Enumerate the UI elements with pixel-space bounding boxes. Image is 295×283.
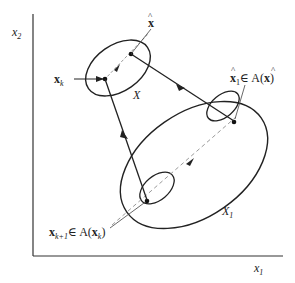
map-xk-to-xk1 — [105, 79, 147, 200]
label-xk: xk — [54, 72, 64, 88]
label-xk1-relation: xk+1∈ A(xk) — [49, 225, 105, 241]
label-set-x: X — [132, 88, 141, 102]
xk1-neighborhood — [134, 166, 180, 210]
xk1-leader — [110, 203, 144, 228]
arrowhead-xhat-xhat1-icon — [176, 84, 185, 91]
y-axis-label: x2 — [11, 25, 21, 41]
dashed-direction — [112, 117, 236, 225]
xhat-leader — [131, 29, 151, 54]
axes — [33, 14, 283, 256]
label-set-x1: X1 — [221, 204, 233, 220]
x-axis-label: x1 — [253, 261, 263, 277]
set-x1-ellipse — [97, 75, 291, 254]
xhat1-neighborhood — [201, 85, 244, 126]
arrowhead-xk-xk1-icon — [120, 130, 128, 139]
label-xhat1-relation: x1∈ A(x) ^ ^ — [230, 65, 276, 87]
xhat-arg-hat-mark: ^ — [271, 65, 276, 75]
svg-text:x1∈ A(x): x1∈ A(x) — [230, 71, 274, 87]
diagram-canvas: x2 x1 xk x ^ X X1 x1∈ A(x) — [0, 0, 295, 283]
